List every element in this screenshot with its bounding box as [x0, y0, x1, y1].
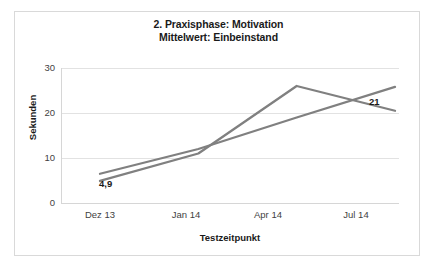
data-label-end-value: 21 — [369, 96, 380, 107]
y-axis-tick-labels: 30 20 10 0 — [27, 0, 55, 270]
chart-title: 2. Praxisphase: Motivation Mittelwert: E… — [0, 18, 437, 44]
y-tick-label-20: 20 — [27, 108, 55, 118]
x-tick-label-jan-14: Jan 14 — [146, 209, 226, 220]
x-axis-line — [61, 203, 399, 204]
x-axis-title: Testzeitpunkt — [61, 232, 399, 243]
series-line-2 — [100, 87, 395, 174]
x-tick-label-dez-13: Dez 13 — [60, 209, 140, 220]
x-tick-label-apr-14: Apr 14 — [228, 209, 308, 220]
chart-title-line-1: 2. Praxisphase: Motivation — [0, 18, 437, 31]
chart-screenshot: 2. Praxisphase: Motivation Mittelwert: E… — [0, 0, 437, 270]
y-tick-label-30: 30 — [27, 63, 55, 73]
data-label-start-value: 4,9 — [99, 178, 112, 189]
y-tick-label-10: 10 — [27, 153, 55, 163]
chart-title-line-2: Mittelwert: Einbeinstand — [0, 31, 437, 44]
y-tick-label-0: 0 — [27, 198, 55, 208]
x-tick-label-jul-14: Jul 14 — [316, 209, 396, 220]
